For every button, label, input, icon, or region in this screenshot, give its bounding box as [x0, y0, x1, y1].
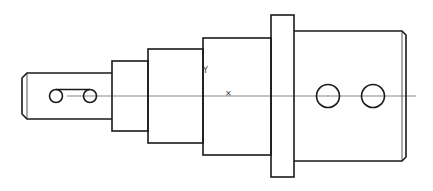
shaft-step-4	[203, 38, 271, 155]
origin-cross-marker: ×	[225, 89, 232, 98]
drawing-canvas: Y ×	[0, 0, 433, 191]
ucs-y-marker: Y	[202, 66, 208, 75]
